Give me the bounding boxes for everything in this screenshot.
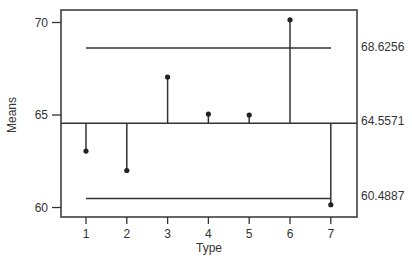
x-tick-label: 2	[123, 227, 130, 241]
upper-limit-label: 68.6256	[361, 40, 405, 54]
y-axis-label: Means	[5, 97, 19, 133]
y-tick-label: 70	[35, 16, 49, 30]
x-axis: 1234567	[83, 217, 335, 241]
lower-limit-label: 60.4887	[361, 189, 405, 203]
analysis-of-means-chart: 606570 1234567 Type Means 68.6256 64.557…	[0, 0, 412, 265]
mean-point	[247, 112, 252, 117]
mean-point	[206, 111, 211, 116]
x-tick-label: 4	[205, 227, 212, 241]
mean-point	[124, 168, 129, 173]
x-axis-label: Type	[196, 241, 222, 255]
mean-point	[165, 74, 170, 79]
data-points	[83, 17, 333, 207]
mean-point	[287, 17, 292, 22]
mean-point	[83, 148, 88, 153]
x-tick-label: 1	[83, 227, 90, 241]
y-axis: 606570	[35, 16, 61, 215]
x-tick-label: 3	[164, 227, 171, 241]
y-tick-label: 65	[35, 108, 49, 122]
x-tick-label: 7	[327, 227, 334, 241]
x-tick-label: 6	[287, 227, 294, 241]
x-tick-label: 5	[246, 227, 253, 241]
y-tick-label: 60	[35, 201, 49, 215]
center-line-label: 64.5571	[361, 114, 405, 128]
mean-point	[328, 202, 333, 207]
